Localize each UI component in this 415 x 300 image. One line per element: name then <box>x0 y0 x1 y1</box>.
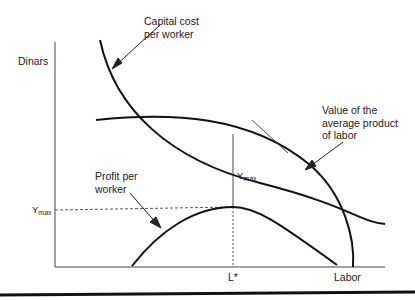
capital-cost-line2: per worker <box>144 28 199 41</box>
gap-ymax-label: Ymax <box>237 170 257 186</box>
y-ymax-label: Ymax <box>32 204 52 220</box>
vapl-line3: of labor <box>322 129 398 142</box>
profit-line1: Profit per <box>95 170 138 183</box>
gap-ymax-sub: max <box>243 175 256 182</box>
tangent-line <box>252 120 288 153</box>
vapl-line2: average product <box>322 117 398 130</box>
capital-cost-line1: Capital cost <box>144 15 199 28</box>
capital-cost-label: Capital cost per worker <box>144 15 199 40</box>
x-axis-label: Labor <box>334 271 361 284</box>
bottom-rule <box>0 292 415 295</box>
ymax-sub: max <box>38 209 51 216</box>
vapl-line1: Value of the <box>322 104 398 117</box>
arrow-vapl <box>305 142 343 170</box>
profit-label: Profit per worker <box>95 170 138 195</box>
profit-line2: worker <box>95 183 138 196</box>
profit-curve <box>132 207 337 266</box>
lstar-label: L* <box>228 271 238 284</box>
diagram-canvas <box>0 0 415 300</box>
vapl-label: Value of the average product of labor <box>322 104 398 142</box>
y-axis-label: Dinars <box>18 55 48 68</box>
arrow-profit <box>130 193 161 228</box>
